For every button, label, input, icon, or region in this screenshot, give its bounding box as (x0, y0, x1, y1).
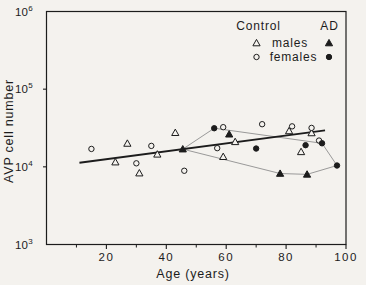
x-tick-label: 60 (218, 251, 234, 263)
data-point (134, 161, 139, 166)
data-point (309, 125, 314, 130)
y-axis-label: AVP cell number (2, 79, 16, 183)
legend-col-header-control: Control (236, 19, 280, 33)
legend-marker-open-triangle (253, 39, 260, 45)
legend-marker-filled-circle (326, 54, 331, 59)
data-point (182, 168, 187, 173)
data-point (297, 148, 304, 154)
legend-row-label: females (270, 50, 318, 64)
figure-page: 20406080100Age (years)103104105106AVP ce… (0, 0, 366, 285)
x-axis-label: Age (years) (156, 267, 229, 281)
series-ad-males (179, 131, 310, 178)
data-point (124, 140, 131, 146)
data-point (220, 153, 227, 159)
data-point (259, 121, 264, 126)
data-point (136, 170, 143, 176)
data-point (172, 129, 179, 135)
series-ad-females (212, 126, 340, 169)
data-point (221, 124, 226, 129)
legend-marker-filled-triangle (325, 39, 332, 45)
x-tick-label: 20 (99, 251, 115, 263)
data-point (303, 142, 308, 147)
data-point (89, 146, 94, 151)
data-point (253, 146, 258, 151)
legend-marker-open-circle (254, 54, 259, 59)
data-point (112, 159, 119, 165)
series-control-females (89, 121, 322, 173)
data-point (289, 124, 294, 129)
data-point (212, 126, 217, 131)
data-point (215, 145, 220, 150)
y-tick-label: 103 (15, 237, 33, 251)
data-point (334, 163, 339, 168)
data-point (319, 141, 324, 146)
legend-col-header-ad: AD (320, 19, 338, 33)
legend-row-label: males (272, 36, 308, 50)
x-tick-label: 40 (158, 251, 174, 263)
series-control-males (112, 127, 315, 176)
avp-cell-number-scatter-plot: 20406080100Age (years)103104105106AVP ce… (0, 0, 366, 285)
data-point (149, 143, 154, 148)
y-tick-label: 104 (15, 159, 33, 173)
y-tick-label: 106 (15, 4, 33, 18)
data-point (226, 131, 233, 137)
control-regression-line (79, 130, 325, 162)
y-tick-label: 105 (15, 81, 33, 95)
x-tick-label: 80 (278, 251, 294, 263)
x-tick-label: 100 (334, 251, 358, 263)
